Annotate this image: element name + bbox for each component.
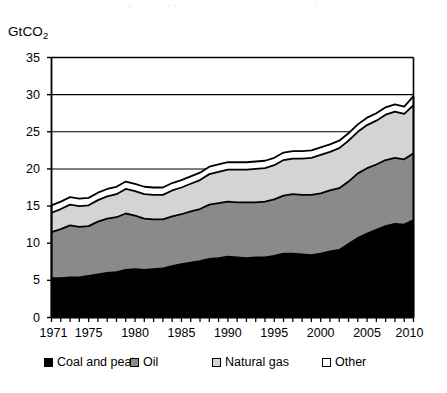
legend-item-oil[interactable]: Oil (130, 355, 158, 369)
y-tick-label-25: 25 (14, 125, 40, 139)
legend-item-natural-gas[interactable]: Natural gas (212, 355, 289, 369)
x-tick-label-1985: 1985 (161, 326, 201, 340)
x-tick-label-1980: 1980 (115, 326, 155, 340)
x-tick-label-2010: 2010 (390, 326, 430, 340)
legend-swatch-icon (322, 358, 331, 367)
plot-area (0, 0, 447, 349)
y-tick-label-35: 35 (14, 51, 40, 65)
y-tick-label-20: 20 (14, 162, 40, 176)
legend-item-other[interactable]: Other (322, 355, 366, 369)
stacked-area-plot (0, 0, 447, 345)
legend-swatch-icon (212, 358, 221, 367)
legend-label: Coal and peat (57, 355, 135, 369)
legend-label: Natural gas (225, 355, 289, 369)
y-tick-label-10: 10 (14, 236, 40, 250)
legend-swatch-icon (44, 358, 53, 367)
x-tick-label-1971: 1971 (34, 326, 74, 340)
legend-item-coal-and-peat[interactable]: Coal and peat (44, 355, 135, 369)
x-tick-label-1995: 1995 (254, 326, 294, 340)
y-tick-label-15: 15 (14, 199, 40, 213)
y-tick-label-30: 30 (14, 88, 40, 102)
x-tick-label-2005: 2005 (347, 326, 387, 340)
chart-figure: GtCO2 05101520253035 1971197519801985199… (0, 0, 447, 393)
y-tick-label-0: 0 (14, 311, 40, 325)
legend-label: Other (335, 355, 366, 369)
x-tick-label-1990: 1990 (208, 326, 248, 340)
chart-legend: Coal and peatOilNatural gasOther (0, 355, 447, 377)
x-tick-label-2000: 2000 (301, 326, 341, 340)
x-tick-label-1975: 1975 (69, 326, 109, 340)
y-tick-label-5: 5 (14, 273, 40, 287)
legend-swatch-icon (130, 358, 139, 367)
legend-label: Oil (143, 355, 158, 369)
